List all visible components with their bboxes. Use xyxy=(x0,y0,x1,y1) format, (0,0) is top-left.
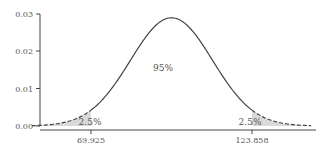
y-tick-label-0.02: 0.02 xyxy=(15,47,33,56)
x-tick-label-right: 123.858 xyxy=(235,136,268,145)
normal-distribution-chart: 0.03 0.02 0.01 0.00 69.925 123.858 2.5% … xyxy=(0,0,330,154)
y-tick-label-0.00: 0.00 xyxy=(15,122,33,131)
y-tick-label-0.01: 0.01 xyxy=(15,85,33,94)
left-tail-label: 2.5% xyxy=(79,117,102,127)
center-label: 95% xyxy=(153,63,173,73)
right-tail-label: 2.5% xyxy=(239,117,262,127)
y-tick-label-0.03: 0.03 xyxy=(15,10,33,19)
chart-svg: 0.03 0.02 0.01 0.00 69.925 123.858 2.5% … xyxy=(0,0,330,154)
x-tick-label-left: 69.925 xyxy=(77,136,105,145)
